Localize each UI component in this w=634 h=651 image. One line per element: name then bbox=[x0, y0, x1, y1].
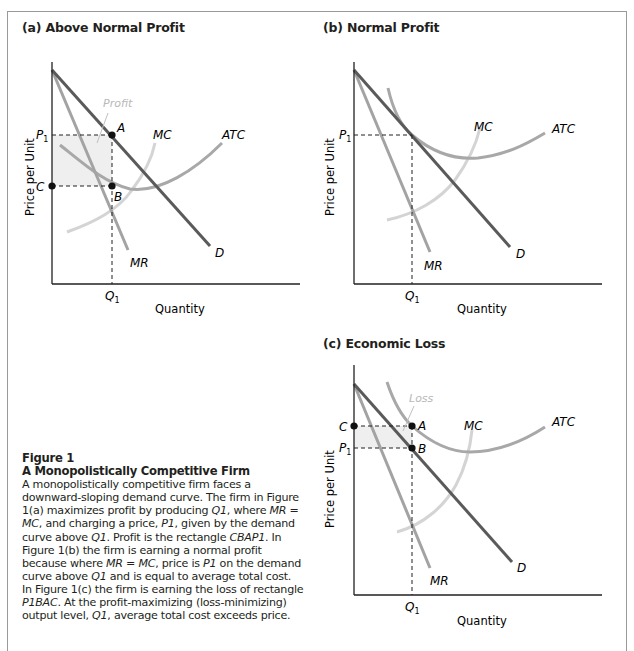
q1-label: Q1 bbox=[405, 289, 420, 305]
point-c bbox=[350, 422, 357, 429]
point-b bbox=[108, 182, 115, 189]
y-axis-label: Price per Unit bbox=[323, 450, 337, 528]
p1-label: P1 bbox=[36, 128, 48, 144]
x-axis-label: Quantity bbox=[457, 302, 507, 316]
q1-label: Q1 bbox=[405, 600, 420, 616]
caption-body: A monopolistically competitive firm face… bbox=[22, 478, 303, 622]
c-label: C bbox=[36, 180, 45, 194]
panel-b-chart: P1 MC ATC MR D Q1 Quantity Price per Uni… bbox=[323, 62, 602, 316]
demand-line bbox=[354, 70, 510, 247]
caption-title: A Monopolistically Competitive Firm bbox=[22, 465, 304, 478]
d-label: D bbox=[516, 247, 525, 261]
d-label: D bbox=[517, 561, 526, 575]
point-b bbox=[408, 444, 415, 451]
panel-c-chart: Loss C P1 A B MC ATC MR D Q1 Quantity Pr… bbox=[323, 365, 602, 628]
loss-label: Loss bbox=[409, 392, 434, 405]
atc-label: ATC bbox=[551, 415, 576, 429]
atc-label: ATC bbox=[551, 122, 576, 136]
point-a bbox=[408, 422, 415, 429]
p1-label: P1 bbox=[339, 128, 351, 144]
b-label: B bbox=[114, 190, 122, 204]
mr-line bbox=[354, 70, 430, 252]
point-c bbox=[48, 182, 55, 189]
x-axis-label: Quantity bbox=[457, 614, 507, 628]
demand-line bbox=[354, 384, 512, 562]
q1-label: Q1 bbox=[105, 289, 120, 305]
mc-label: MC bbox=[153, 128, 172, 142]
d-label: D bbox=[215, 246, 224, 260]
y-axis-label: Price per Unit bbox=[23, 138, 37, 216]
mr-label: MR bbox=[430, 574, 449, 588]
mr-label: MR bbox=[424, 259, 443, 273]
mr-line bbox=[354, 384, 430, 568]
profit-label: Profit bbox=[103, 97, 133, 110]
atc-curve bbox=[388, 88, 545, 158]
mr-label: MR bbox=[130, 256, 149, 270]
mc-label: MC bbox=[464, 419, 483, 433]
a-label: A bbox=[417, 419, 426, 433]
b-label: B bbox=[418, 442, 426, 456]
a-label: A bbox=[116, 121, 125, 135]
figure-caption: Figure 1 A Monopolistically Competitive … bbox=[22, 452, 304, 622]
c-label: C bbox=[339, 420, 348, 434]
mc-label: MC bbox=[474, 120, 493, 134]
y-axis-label: Price per Unit bbox=[323, 138, 337, 216]
panel-a-chart: Profit P1 C A B MC ATC MR D Q1 Quantity … bbox=[23, 62, 300, 316]
mc-curve bbox=[387, 128, 480, 220]
atc-label: ATC bbox=[221, 128, 246, 142]
point-a bbox=[108, 131, 115, 138]
x-axis-label: Quantity bbox=[155, 302, 205, 316]
p1-label: P1 bbox=[339, 441, 351, 457]
